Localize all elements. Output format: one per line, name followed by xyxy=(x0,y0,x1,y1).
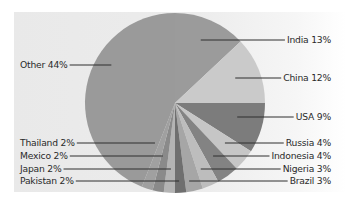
slice-label-india: India 13% xyxy=(287,34,332,45)
slice-label-pakistan: Pakistan 2% xyxy=(20,175,74,186)
slice-label-brazil: Brazil 3% xyxy=(290,175,332,186)
slice-label-thailand: Thailand 2% xyxy=(19,137,75,148)
slice-label-nigeria: Nigeria 3% xyxy=(283,163,332,174)
slice-label-japan: Japan 2% xyxy=(19,163,62,174)
slice-label-usa: USA 9% xyxy=(296,111,332,122)
slice-label-mexico: Mexico 2% xyxy=(20,150,68,161)
slice-label-china: China 12% xyxy=(283,72,331,83)
slice-label-russia: Russia 4% xyxy=(286,137,332,148)
slice-label-other: Other 44% xyxy=(20,59,68,70)
slice-label-indonesia: Indonesia 4% xyxy=(271,150,331,161)
pie-chart: India 13%China 12%USA 9%Russia 4%Indones… xyxy=(0,0,346,202)
